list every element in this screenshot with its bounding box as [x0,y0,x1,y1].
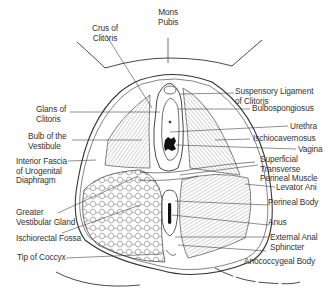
label-mons-pubis: Mons Pubis [158,8,178,27]
label-anococcygeal-body: Anococcygeal Body [244,257,315,267]
label-bulbospongiosus: Bulbospongiosus [252,104,314,114]
label-urethra: Urethra [290,122,317,132]
label-levator-ani: Levator Ani [276,183,316,193]
label-glans-of-clitoris: Glans of Clitoris [36,105,66,124]
label-perineal-body: Perineal Body [268,198,318,208]
label-anus: Anus [268,218,287,228]
label-ischiorectal-fossa: Ischiorectal Fossa [16,234,81,244]
label-external-anal-sphincter: External Anal Sphincter [270,233,318,252]
label-bulb-of-vestibule: Bulb of the Vestibule [28,132,67,151]
label-crus-of-clitoris: Crus of Clitoris [92,24,118,43]
label-interior-fascia: Interior Fascia of Urogenital Diaphragm [16,157,67,186]
label-tip-of-coccyx: Tip of Coccyx [17,253,66,263]
label-greater-vestibular-gland: Greater Vestibular Gland [16,208,75,227]
label-vagina: Vagina [298,145,323,155]
label-ischiocavernosus: Ischiocavernosus [253,134,316,144]
label-superficial-transverse-perineal-muscle: Superficial Transverse Perineal Muscle [260,155,318,184]
